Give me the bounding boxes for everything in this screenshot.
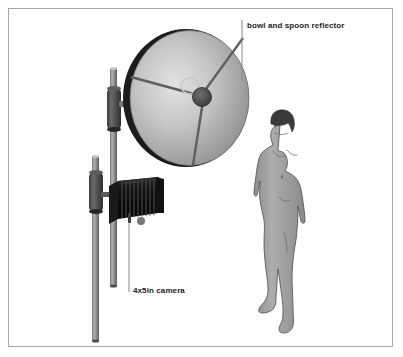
reflector-stand-clamp-top [107,86,121,91]
large-format-camera [109,177,164,225]
reflector-mount-arm-cap [119,101,123,107]
camera-callout-label: 4x5in camera [133,286,185,295]
camera-tripod-shaft [128,213,131,223]
reflector-stand-pole-cap [110,67,117,70]
camera-stand-clamp-bottom [89,209,103,214]
bowl-and-spoon-reflector [123,29,249,167]
reflector-stand-pole-foot [110,284,117,287]
reflector-face [130,31,249,166]
studio-setup-illustration [0,0,403,357]
camera-stand-clamp-top [89,170,103,175]
camera-stand-pole-cap [92,155,99,158]
camera-rear-standard [109,181,118,224]
camera-front-standard [156,177,164,213]
illustration-page: bowl and spoon reflector 4x5in camera [0,0,403,357]
figure-navel [281,176,283,178]
human-scale-figure [254,110,305,333]
camera-stand-pole-foot [92,339,99,342]
reflector-stand-clamp [107,88,121,130]
camera-stand-clamp [89,172,103,212]
figure-face-details [274,125,277,127]
reflector-callout-label: bowl and spoon reflector [247,21,345,30]
camera-lens-knob [137,217,145,225]
reflector-stand-clamp-bottom [107,127,121,132]
